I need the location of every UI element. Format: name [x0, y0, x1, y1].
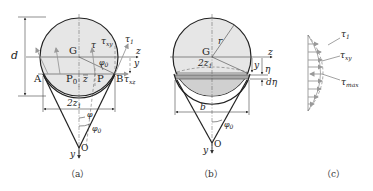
figure-b: r G 2z1 z y η dη b φ0 O y （b）	[170, 14, 278, 179]
label-tau1-c: τ1	[341, 29, 350, 40]
label-z-axis-b: z	[267, 47, 273, 57]
label-z-axis: z	[135, 46, 141, 56]
caption-c: （c）	[322, 169, 345, 179]
label-B: B	[116, 73, 123, 84]
diagram-canvas: d G A B P0 z P z y τ τxy τ1 τxz φ0 2z1 φ…	[0, 0, 373, 191]
label-tau-xz: τxz	[124, 74, 136, 85]
label-d: d	[11, 49, 18, 62]
label-phi0: φ0	[92, 124, 102, 134]
label-y-dim: y	[133, 58, 140, 68]
label-O-b: O	[214, 139, 221, 149]
tau-xy-envelope	[308, 35, 321, 111]
label-y-bottom: y	[69, 149, 76, 159]
label-O: O	[81, 143, 88, 153]
caption-b: （b）	[199, 169, 223, 179]
figure-a: d G A B P0 z P z y τ τxy τ1 τxz φ0 2z1 φ…	[11, 14, 141, 179]
phi0-arc	[79, 124, 90, 126]
label-tau1: τ1	[125, 34, 134, 45]
label-G-b: G	[202, 46, 210, 57]
label-zbar: z	[82, 74, 88, 84]
phi0-arc-b	[212, 120, 222, 122]
figure-c: τ1 τxy τmax （c）	[308, 29, 359, 179]
shear-arrows-c	[308, 44, 322, 104]
label-tau-xy-c: τxy	[340, 50, 352, 62]
leader-tau-xy	[322, 56, 340, 61]
label-d-eta: dη	[266, 77, 278, 87]
caption-a: （a）	[66, 169, 89, 179]
label-y-dim-b: y	[253, 60, 260, 70]
label-G: G	[69, 45, 77, 56]
label-phi0-b: φ0	[224, 120, 234, 130]
label-A: A	[33, 73, 42, 84]
leader-tau1	[328, 38, 340, 45]
leader-tau-max	[322, 74, 340, 80]
label-y-bottom-b: y	[202, 145, 209, 155]
label-tau-max-c: τmax	[341, 77, 359, 88]
phi-arc	[79, 117, 85, 118]
label-eta: η	[265, 64, 271, 74]
label-phi: φ	[87, 110, 93, 119]
label-b: b	[200, 102, 206, 112]
label-P: P	[97, 73, 104, 84]
label-r: r	[218, 36, 223, 46]
